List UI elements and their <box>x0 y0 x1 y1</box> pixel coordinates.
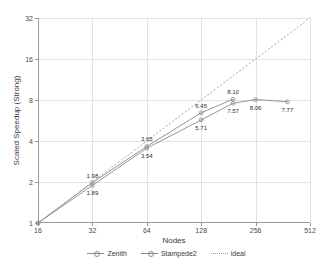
data-point-center <box>201 112 202 113</box>
data-point-center <box>232 99 233 100</box>
point-value-label: 5.71 <box>195 125 207 131</box>
data-point-center <box>92 185 93 186</box>
y-tick-label: 8 <box>29 97 33 104</box>
x-tick-mark <box>201 223 202 226</box>
x-tick-label: 16 <box>34 227 42 234</box>
x-tick-label: 128 <box>195 227 207 234</box>
chart-container: 12481632 163264128256512 1.983.656.458.1… <box>0 0 333 270</box>
point-value-label: 8.06 <box>250 105 262 111</box>
legend-marker-icon <box>94 251 100 257</box>
y-tick-label: 4 <box>29 138 33 145</box>
legend-entry-stampede2[interactable]: Stampede2 <box>141 250 197 257</box>
x-tick-mark <box>256 223 257 226</box>
x-axis-title: Nodes <box>38 236 310 245</box>
legend-swatch-icon <box>211 250 228 257</box>
data-point-center <box>201 119 202 120</box>
legend-label: Stampede2 <box>161 250 197 257</box>
x-tick-label: 32 <box>88 227 96 234</box>
point-value-label: 1.89 <box>87 190 99 196</box>
data-point-center <box>232 103 233 104</box>
point-value-label: 7.77 <box>282 107 294 113</box>
legend-entry-zenith[interactable]: Zenith <box>87 250 126 257</box>
y-tick-label: 16 <box>25 56 33 63</box>
gridline-vertical <box>310 18 311 223</box>
y-axis-title: Scaled Speedup (Strong) <box>12 18 24 223</box>
point-value-label: 7.57 <box>227 108 239 114</box>
y-tick-label: 2 <box>29 179 33 186</box>
data-point-center <box>146 148 147 149</box>
data-point-center <box>287 101 288 102</box>
point-value-label: 3.54 <box>141 153 153 159</box>
legend-marker-icon <box>148 251 154 257</box>
x-tick-mark <box>147 223 148 226</box>
series-lines <box>38 18 310 223</box>
legend-entry-ideal[interactable]: ideal <box>211 250 246 257</box>
legend-label: Zenith <box>107 250 126 257</box>
series-line-zenith <box>38 99 233 223</box>
legend-swatch-icon <box>141 250 158 257</box>
y-tick-label: 1 <box>29 220 33 227</box>
y-tick-label: 32 <box>25 15 33 22</box>
x-tick-mark <box>92 223 93 226</box>
legend-label: ideal <box>231 250 246 257</box>
x-tick-label: 512 <box>304 227 316 234</box>
point-value-label: 1.98 <box>87 173 99 179</box>
series-line-stampede2 <box>38 100 287 223</box>
point-value-label: 8.10 <box>227 89 239 95</box>
point-value-label: 6.45 <box>195 103 207 109</box>
x-tick-label: 64 <box>143 227 151 234</box>
point-value-label: 3.65 <box>141 136 153 142</box>
chart-legend: ZenithStampede2ideal <box>0 250 333 257</box>
plot-area: 12481632 163264128256512 1.983.656.458.1… <box>38 18 310 223</box>
x-tick-mark <box>310 223 311 226</box>
x-tick-label: 256 <box>250 227 262 234</box>
legend-swatch-icon <box>87 250 104 257</box>
data-point-center <box>255 99 256 100</box>
